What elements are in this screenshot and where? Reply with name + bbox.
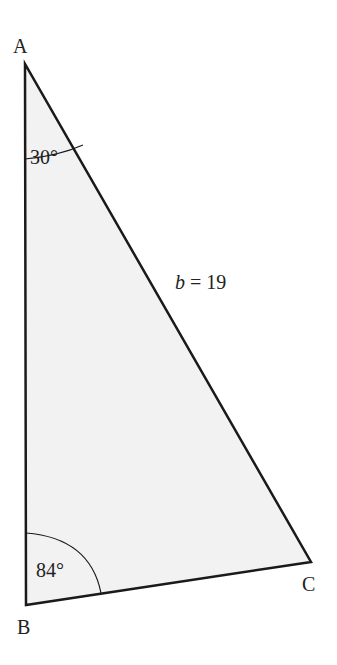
- vertex-label-a: A: [13, 35, 28, 57]
- vertex-label-b: B: [17, 616, 30, 638]
- triangle-abc: [25, 64, 311, 605]
- angle-label-a: 30°: [30, 146, 58, 168]
- side-var-b: b: [175, 271, 185, 293]
- side-label-b: b = 19: [175, 271, 226, 293]
- angle-label-b: 84°: [36, 559, 64, 581]
- side-value-b: = 19: [185, 271, 226, 293]
- vertex-label-c: C: [302, 573, 315, 595]
- triangle-diagram: A B C 30° 84° b = 19: [0, 0, 337, 665]
